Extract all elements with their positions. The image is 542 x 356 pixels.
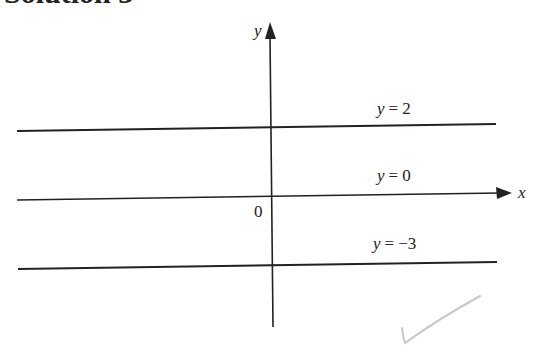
y-axis-arrow-icon xyxy=(265,22,276,39)
x-axis-label: x xyxy=(517,183,526,202)
check-mark-icon xyxy=(402,296,480,343)
x-axis-arrow-icon xyxy=(496,187,512,199)
label-y-equals-minus-3: y=−3 xyxy=(371,234,416,253)
y-axis xyxy=(270,36,273,327)
x-axis xyxy=(17,193,500,200)
label-y-equals-2: y=2 xyxy=(375,99,411,118)
label-y-equals-0: y=0 xyxy=(375,166,411,185)
origin-label: 0 xyxy=(254,202,263,221)
line-y-equals-minus-3 xyxy=(18,262,497,269)
y-axis-label: y xyxy=(252,21,262,40)
line-y-equals-2 xyxy=(17,124,496,131)
graph-figure: y x 0 y=2 y=0 y=−3 xyxy=(0,0,542,356)
